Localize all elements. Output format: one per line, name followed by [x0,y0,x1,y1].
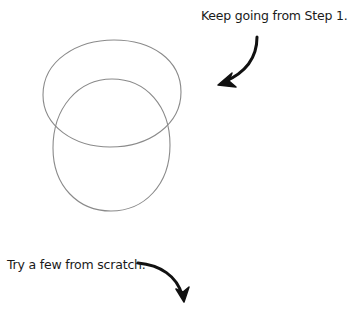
scratch-instruction-text: Try a few from scratch. [7,259,146,272]
top-oval [43,40,181,147]
step1-instruction-text: Keep going from Step 1. [201,10,348,23]
curved-arrow-icon [218,37,257,87]
bottom-oval [53,79,170,211]
